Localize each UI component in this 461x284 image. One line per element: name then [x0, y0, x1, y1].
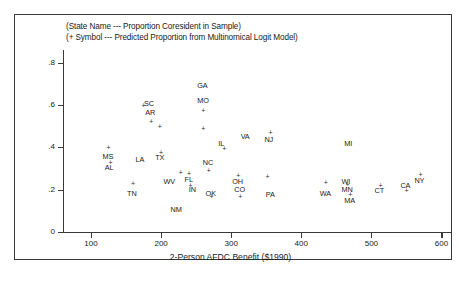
state-point-label: MI — [344, 139, 352, 148]
x-tick-label: 300 — [216, 239, 246, 248]
y-tick-mark — [58, 105, 63, 106]
x-axis-title: 2-Person AFDC Benefit ($1990) — [0, 252, 461, 262]
x-tick-label: 200 — [146, 239, 176, 248]
predicted-proportion-marker — [157, 124, 162, 129]
y-tick-label: .8 — [33, 58, 55, 67]
x-tick-mark — [371, 233, 372, 238]
predicted-proportion-marker — [201, 108, 206, 113]
state-point-label: GA — [197, 81, 207, 90]
y-tick-mark — [58, 232, 63, 233]
predicted-proportion-marker — [131, 181, 136, 186]
predicted-proportion-marker — [188, 183, 193, 188]
y-tick-label: 0 — [33, 227, 55, 236]
y-tick-label: .6 — [33, 100, 55, 109]
state-point-label: WA — [320, 189, 331, 198]
predicted-proportion-marker — [238, 194, 243, 199]
state-point-label: MO — [197, 96, 209, 105]
y-axis — [63, 50, 64, 233]
y-tick-mark — [58, 147, 63, 148]
x-tick-mark — [301, 233, 302, 238]
state-point-label: VA — [241, 132, 250, 141]
figure-container: (State Name --- Proportion Coresident in… — [0, 0, 461, 284]
state-point-label: AR — [145, 108, 155, 117]
predicted-proportion-marker — [141, 103, 146, 108]
state-point-label: LA — [136, 155, 145, 164]
predicted-proportion-marker — [265, 174, 270, 179]
predicted-proportion-marker — [201, 126, 206, 131]
predicted-proportion-marker — [178, 170, 183, 175]
predicted-proportion-marker — [159, 150, 164, 155]
predicted-proportion-marker — [108, 160, 113, 165]
state-point-label: NM — [171, 205, 182, 214]
state-point-label: PA — [266, 190, 275, 199]
predicted-proportion-marker — [348, 192, 353, 197]
x-tick-mark — [91, 233, 92, 238]
predicted-proportion-marker — [236, 173, 241, 178]
x-tick-mark — [231, 233, 232, 238]
predicted-proportion-marker — [206, 168, 211, 173]
y-tick-mark — [58, 63, 63, 64]
predicted-proportion-marker — [222, 146, 227, 151]
predicted-proportion-marker — [209, 194, 214, 199]
x-tick-label: 500 — [356, 239, 386, 248]
predicted-proportion-marker — [378, 183, 383, 188]
x-axis — [63, 232, 452, 233]
x-tick-label: 100 — [76, 239, 106, 248]
state-point-label: NJ — [264, 135, 273, 144]
x-tick-mark — [441, 233, 442, 238]
x-tick-label: 400 — [286, 239, 316, 248]
predicted-proportion-marker — [268, 130, 273, 135]
x-tick-label: 600 — [426, 239, 456, 248]
state-point-label: WV — [164, 177, 176, 186]
state-point-label: TN — [127, 189, 137, 198]
predicted-proportion-marker — [149, 119, 154, 124]
y-tick-mark — [58, 190, 63, 191]
predicted-proportion-marker — [404, 188, 409, 193]
state-point-label: NC — [203, 158, 213, 167]
y-tick-label: .2 — [33, 185, 55, 194]
predicted-proportion-marker — [323, 180, 328, 185]
x-tick-mark — [161, 233, 162, 238]
predicted-proportion-marker — [345, 182, 350, 187]
predicted-proportion-marker — [418, 172, 423, 177]
predicted-proportion-marker — [187, 171, 192, 176]
predicted-proportion-marker — [106, 145, 111, 150]
scatter-plot: 0.2.4.6.8100200300400500600GAMOSCARVANJI… — [0, 0, 461, 284]
y-tick-label: .4 — [33, 142, 55, 151]
